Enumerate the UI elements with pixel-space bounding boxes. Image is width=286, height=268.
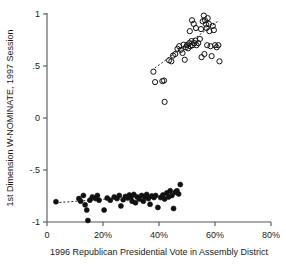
data-point-filled bbox=[95, 193, 100, 198]
data-point-filled bbox=[102, 208, 107, 213]
y-tick-label: -1 bbox=[32, 217, 40, 227]
data-point-open bbox=[151, 69, 156, 74]
data-point-filled bbox=[84, 208, 89, 213]
data-point-filled bbox=[53, 199, 58, 204]
data-point-open bbox=[162, 99, 167, 104]
scatter-plot-figure: 1.50-.5-1020%40%60%80%1996 Republican Pr… bbox=[0, 0, 286, 268]
data-point-filled bbox=[117, 193, 122, 198]
y-tick-label: 1 bbox=[35, 9, 40, 19]
data-point-open bbox=[187, 29, 192, 34]
x-tick-label: 0 bbox=[44, 230, 49, 240]
y-axis-title: 1st Dimension W-NOMINATE, 1997 Session bbox=[5, 29, 15, 206]
data-point-open bbox=[152, 80, 157, 85]
x-tick-label: 60% bbox=[206, 230, 224, 240]
data-point-open bbox=[198, 26, 203, 31]
data-point-filled bbox=[178, 182, 183, 187]
x-tick-label: 40% bbox=[150, 230, 168, 240]
data-point-open bbox=[193, 25, 198, 30]
data-point-filled bbox=[155, 205, 160, 210]
y-tick-label: -.5 bbox=[29, 165, 40, 175]
data-point-filled bbox=[97, 198, 102, 203]
data-point-filled bbox=[85, 218, 90, 223]
x-axis-title: 1996 Republican Presidential Vote in Ass… bbox=[50, 247, 269, 257]
data-point-open bbox=[182, 57, 187, 62]
data-point-filled bbox=[153, 193, 158, 198]
data-point-open bbox=[205, 43, 210, 48]
data-point-open bbox=[209, 54, 214, 59]
data-point-filled bbox=[176, 191, 181, 196]
data-point-filled bbox=[118, 203, 123, 208]
data-point-filled bbox=[78, 199, 83, 204]
data-point-filled bbox=[148, 202, 153, 207]
x-tick-label: 20% bbox=[94, 230, 112, 240]
plot-canvas: 1.50-.5-1020%40%60%80%1996 Republican Pr… bbox=[0, 0, 286, 268]
data-point-open bbox=[217, 59, 222, 64]
data-point-filled bbox=[168, 188, 173, 193]
data-point-filled bbox=[171, 206, 176, 211]
x-tick-label: 80% bbox=[262, 230, 280, 240]
y-tick-label: 0 bbox=[35, 113, 40, 123]
data-point-filled bbox=[83, 202, 88, 207]
data-point-filled bbox=[81, 193, 86, 198]
series-republican-legislators bbox=[151, 13, 222, 105]
series-democrat-legislators bbox=[53, 182, 182, 223]
data-point-filled bbox=[133, 200, 138, 205]
y-tick-label: .5 bbox=[32, 61, 40, 71]
